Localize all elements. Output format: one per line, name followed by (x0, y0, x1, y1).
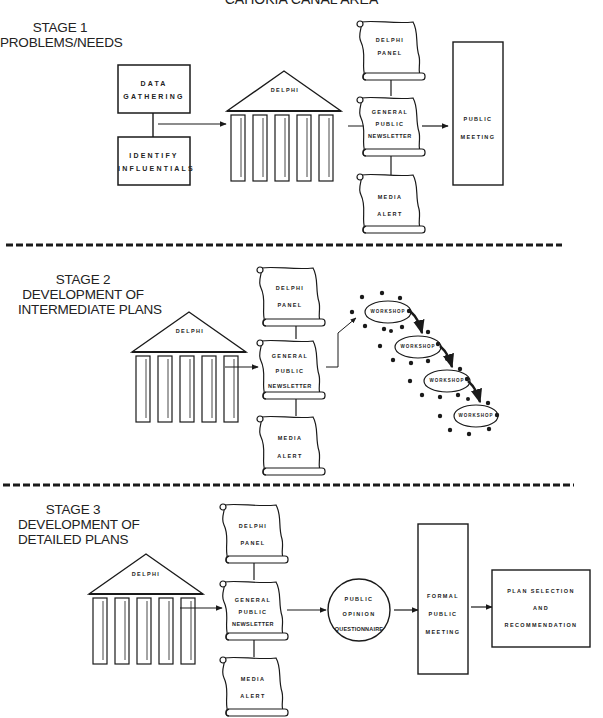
scroll-label: NEWSLETTER (360, 130, 420, 142)
scroll-newsletter: GENERAL PUBLIC NEWSLETTER (360, 106, 420, 142)
circle-label: PUBLIC (326, 592, 392, 607)
circle-label: QUESTIONNAIRE (326, 622, 392, 637)
scroll-label: GENERAL (360, 106, 420, 118)
stage-description: PROBLEMS/NEEDS (0, 35, 120, 50)
scroll-label: PANEL (260, 297, 320, 314)
scroll-newsletter: GENERAL PUBLIC NEWSLETTER (260, 349, 320, 394)
stage-label: STAGE 1 (0, 20, 120, 35)
box-label: PUBLIC (418, 605, 468, 623)
scroll-label: NEWSLETTER (223, 618, 283, 630)
scroll-media-alert: MEDIA ALERT (223, 671, 283, 705)
stage-label: STAGE 2 (18, 272, 148, 287)
box-label: DATA (118, 79, 190, 89)
public-opinion-questionnaire: PUBLIC OPINION QUESTIONNAIRE (326, 592, 392, 637)
workshop-2: WORKSHOP (395, 344, 441, 349)
circle-label: OPINION (326, 607, 392, 622)
box-label: PLAN SELECTION (492, 583, 590, 600)
box-formal-public-meeting: FORMAL PUBLIC MEETING (418, 587, 468, 641)
diagram-title: CAHOKIA CANAL AREA (0, 0, 603, 7)
scroll-label: GENERAL (260, 349, 320, 364)
stage-3-heading: STAGE 3 DEVELOPMENT OF DETAILED PLANS (18, 502, 128, 547)
stage-label: STAGE 3 (18, 502, 128, 517)
box-label: AND (492, 600, 590, 617)
stage-2-heading: STAGE 2 DEVELOPMENT OF INTERMEDIATE PLAN… (18, 272, 148, 317)
workshop-1: WORKSHOP (365, 309, 411, 314)
stage-description: DETAILED PLANS (18, 532, 128, 547)
scroll-label: MEDIA (223, 671, 283, 688)
box-public-meeting: PUBLIC MEETING (453, 110, 503, 146)
box-label: FORMAL (418, 587, 468, 605)
delphi-temple-label: DELPHI (257, 87, 313, 93)
scroll-label: NEWSLETTER (260, 379, 320, 394)
box-label: INFLUENTIALS (118, 164, 190, 174)
scroll-label: PUBLIC (260, 364, 320, 379)
stage-description: DEVELOPMENT OF (18, 287, 148, 302)
scroll-label: PUBLIC (223, 606, 283, 618)
box-label: PUBLIC (453, 110, 503, 128)
scroll-media-alert: MEDIA ALERT (360, 189, 420, 223)
scroll-label: PANEL (223, 535, 283, 552)
stage-1-heading: STAGE 1 PROBLEMS/NEEDS (0, 20, 120, 50)
scroll-label: ALERT (360, 206, 420, 223)
scroll-newsletter: GENERAL PUBLIC NEWSLETTER (223, 594, 283, 630)
scroll-delphi-panel: DELPHI PANEL (260, 280, 320, 314)
scroll-label: MEDIA (360, 189, 420, 206)
scroll-label: ALERT (223, 688, 283, 705)
scroll-label: GENERAL (223, 594, 283, 606)
box-plan-selection: PLAN SELECTION AND RECOMMENDATION (492, 583, 590, 634)
scroll-label: MEDIA (260, 429, 320, 447)
delphi-temple-label: DELPHI (118, 571, 174, 577)
scroll-label: DELPHI (260, 280, 320, 297)
scroll-label: DELPHI (360, 34, 420, 47)
box-data-gathering: DATA GATHERING (118, 79, 190, 102)
workshop-4: WORKSHOP (454, 413, 498, 418)
box-label: GATHERING (118, 92, 190, 102)
box-label: MEETING (418, 623, 468, 641)
scroll-media-alert: MEDIA ALERT (260, 429, 320, 465)
scroll-delphi-panel: DELPHI PANEL (360, 34, 420, 60)
scroll-label: ALERT (260, 447, 320, 465)
box-label: IDENTIFY (118, 151, 190, 161)
scroll-label: PUBLIC (360, 118, 420, 130)
stage-description: DEVELOPMENT OF (18, 517, 128, 532)
scroll-label: DELPHI (223, 518, 283, 535)
box-identify-influentials: IDENTIFY INFLUENTIALS (118, 151, 190, 174)
box-label: MEETING (453, 128, 503, 146)
stage-description: INTERMEDIATE PLANS (18, 302, 148, 317)
stage-1-graphics (118, 21, 503, 233)
workshop-3: WORKSHOP (424, 378, 470, 383)
scroll-delphi-panel: DELPHI PANEL (223, 518, 283, 552)
box-label: RECOMMENDATION (492, 617, 590, 634)
scroll-label: PANEL (360, 47, 420, 60)
delphi-temple-label: DELPHI (162, 328, 218, 334)
